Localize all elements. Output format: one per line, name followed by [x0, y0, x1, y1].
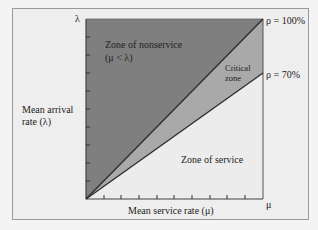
zone-nonservice-label: Zone of nonservice — [105, 39, 182, 51]
rho-100-label: ρ = 100% — [266, 15, 305, 27]
rho-70-label: ρ = 70% — [266, 69, 300, 81]
zone-critical-label-line2: zone — [225, 73, 241, 83]
y-axis-max-label: λ — [75, 13, 80, 25]
zone-nonservice-condition: (μ < λ) — [105, 52, 133, 64]
y-axis-title-line2: rate (λ) — [22, 116, 51, 128]
y-axis-title-line1: Mean arrival — [22, 104, 73, 116]
zone-service-label: Zone of service — [181, 154, 243, 166]
x-axis-title: Mean service rate (μ) — [128, 205, 214, 217]
x-axis-max-label: μ — [266, 199, 271, 211]
zone-critical-label-line1: Critical — [225, 63, 251, 73]
